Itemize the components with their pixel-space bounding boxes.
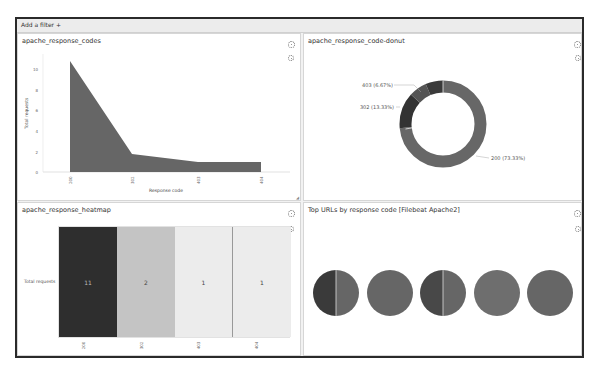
panel-response-codes: apache_response_codes 0 2 4 6 8 10 Total… bbox=[17, 33, 301, 201]
slice-label-302: 302 (13.33%) bbox=[360, 104, 394, 110]
slice-label-200: 200 (73.33%) bbox=[491, 155, 525, 161]
area-chart: 0 2 4 6 8 10 Total requests 200 302 403 … bbox=[18, 34, 302, 202]
heatmap-cell[interactable]: 11 bbox=[59, 227, 117, 337]
x-axis-label: Response code bbox=[149, 188, 183, 193]
heatmap-cell[interactable]: 1 bbox=[175, 227, 233, 337]
slice-label-403: 403 (6.67%) bbox=[362, 82, 393, 88]
panel-top-urls: Top URLs by response code [Filebeat Apac… bbox=[303, 202, 582, 356]
x-tick: 302 bbox=[139, 342, 144, 350]
y-axis-label: Total requests bbox=[24, 97, 29, 130]
pie-chart[interactable] bbox=[474, 270, 520, 316]
x-tick: 200 bbox=[68, 176, 73, 184]
resize-handle-icon[interactable]: ◢ bbox=[296, 195, 300, 200]
x-tick: 302 bbox=[130, 176, 135, 184]
dashboard-frame: Add a filter + apache_response_codes 0 2… bbox=[15, 17, 584, 358]
y-tick: 8 bbox=[35, 88, 38, 93]
filter-bar: Add a filter + bbox=[17, 19, 582, 33]
pie-chart[interactable] bbox=[420, 270, 466, 316]
row-label: Total requests bbox=[24, 279, 55, 284]
pie-chart[interactable] bbox=[527, 270, 573, 316]
y-tick: 6 bbox=[35, 108, 38, 113]
pie-small-multiples bbox=[304, 203, 583, 357]
donut-chart: 403 (6.67%) 302 (13.33%) 200 (73.33%) bbox=[304, 34, 583, 202]
panel-heatmap: apache_response_heatmap Total requests 1… bbox=[17, 202, 301, 356]
x-tick: 404 bbox=[254, 342, 259, 350]
add-filter-button[interactable]: Add a filter + bbox=[21, 21, 61, 28]
x-tick: 404 bbox=[259, 176, 264, 184]
heatmap-cell[interactable]: 2 bbox=[117, 227, 175, 337]
gear-icon[interactable] bbox=[288, 210, 295, 217]
heatmap-cell[interactable]: 1 bbox=[233, 227, 291, 337]
y-tick: 10 bbox=[33, 67, 39, 72]
x-tick: 200 bbox=[81, 342, 86, 350]
x-tick: 403 bbox=[196, 342, 201, 350]
panel-donut: apache_response_code-donut 403 (6.67%) 3… bbox=[303, 33, 582, 201]
x-tick: 403 bbox=[196, 176, 201, 184]
y-tick: 0 bbox=[35, 170, 38, 175]
pie-chart[interactable] bbox=[313, 270, 359, 316]
y-tick: 2 bbox=[35, 150, 38, 155]
heatmap-grid: 11 2 1 1 bbox=[58, 226, 290, 338]
pie-chart[interactable] bbox=[367, 270, 413, 316]
panel-title: apache_response_heatmap bbox=[22, 206, 111, 214]
y-tick: 4 bbox=[35, 129, 38, 134]
